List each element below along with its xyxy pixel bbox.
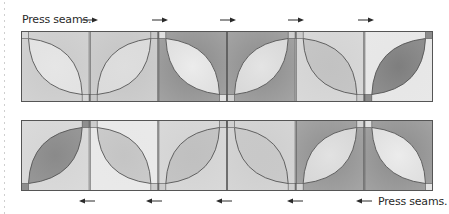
corner-square [227,120,235,128]
top-arrow-right-icon [220,17,236,23]
corner-square [220,120,228,128]
corner-square [426,184,434,192]
bottom-block-4 [227,120,296,191]
bottom-arrow-left-icon [287,198,303,204]
top-arrow-right-icon [82,17,98,23]
corner-square [82,120,90,128]
corner-square [357,95,365,103]
corner-square [288,184,296,192]
bottom-block-3 [158,120,227,191]
corner-square [426,31,434,39]
top-block-1 [21,31,90,102]
bottom-block-2 [90,120,159,191]
bottom-press-seams-label: Press seams. [378,195,447,208]
corner-square [151,184,159,192]
corner-square [21,31,29,39]
top-block-3 [158,31,227,102]
top-block-5 [296,31,365,102]
corner-square [90,95,98,103]
bottom-arrow-left-icon [356,198,372,204]
top-block-6 [364,31,433,102]
top-arrow-right-icon [288,17,304,23]
corner-square [296,184,304,192]
corner-square [220,95,228,103]
corner-square [364,120,372,128]
bottom-block-1 [21,120,90,191]
bottom-arrow-left-icon [146,198,162,204]
top-arrow-right-icon [152,17,168,23]
corner-square [158,184,166,192]
corner-square [227,95,235,103]
corner-square [357,120,365,128]
bottom-block-5 [296,120,365,191]
top-row-graphic [21,31,433,102]
top-block-2 [90,31,159,102]
corner-square [151,31,159,39]
bottom-block-row [21,120,433,191]
top-block-4 [227,31,296,102]
bottom-row-graphic [21,120,433,191]
bottom-block-6 [364,120,433,191]
corner-square [90,120,98,128]
top-block-row [21,31,433,102]
corner-square [82,95,90,103]
corner-square [296,31,304,39]
bottom-arrow-left-icon [79,198,95,204]
corner-square [364,95,372,103]
top-press-seams-label: Press seams. [22,13,91,26]
corner-square [158,31,166,39]
corner-square [21,184,29,192]
top-arrow-right-icon [358,17,374,23]
corner-square [288,31,296,39]
page-margin-dots [3,0,5,214]
bottom-arrow-left-icon [216,198,232,204]
